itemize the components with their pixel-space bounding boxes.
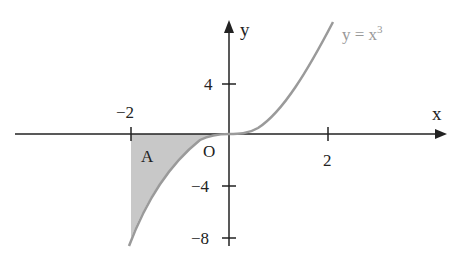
- x-axis-label: x: [432, 104, 442, 123]
- tick-label-y-neg4: −4: [191, 178, 209, 195]
- curve-label-exponent: 3: [377, 23, 383, 35]
- y-axis-arrow-icon: [224, 20, 234, 33]
- y-axis-label: y: [240, 20, 250, 39]
- tick-label-y-neg8: −8: [191, 230, 209, 247]
- curve-label-base: y = x: [342, 25, 377, 44]
- region-label-a: A: [141, 148, 153, 165]
- tick-label-x-2: 2: [323, 152, 332, 169]
- plot-canvas: [0, 0, 451, 263]
- tick-label-y-4: 4: [204, 76, 213, 93]
- curve-label: y = x3: [342, 24, 383, 43]
- origin-label: O: [203, 143, 215, 160]
- x-axis-arrow-icon: [435, 129, 447, 139]
- tick-label-x-neg2: −2: [116, 104, 134, 121]
